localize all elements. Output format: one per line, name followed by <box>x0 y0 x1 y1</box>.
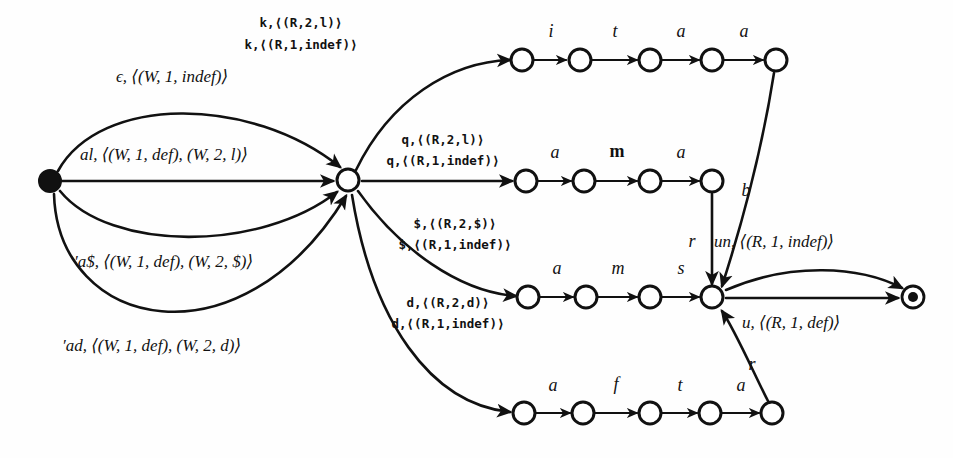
label-r-upper: r <box>688 231 696 251</box>
row1-state-2[interactable] <box>569 49 591 71</box>
row3-state-2[interactable] <box>575 286 597 308</box>
label-epsilon-edge: ϵ, ⟨(W, 1, indef)⟩ <box>116 67 228 86</box>
label-row4-t: t <box>677 375 683 395</box>
row4-state-4[interactable] <box>699 402 721 424</box>
label-ad-edge: ′ad, ⟨(W, 1, def), (W, 2, d)⟩ <box>62 336 241 355</box>
edge-a-dollar <box>60 191 337 237</box>
label-r-lower: r <box>748 354 756 374</box>
label-dollar-line2: $,⟨(R,1,indef)⟩ <box>399 237 512 252</box>
edge-un <box>726 270 902 290</box>
label-row2-a1: a <box>551 142 560 162</box>
row2-state-1[interactable] <box>515 170 537 192</box>
row2-state-3[interactable] <box>639 170 661 192</box>
label-row1-i: i <box>548 21 553 41</box>
label-q-line2: q,⟨(R,1,indef)⟩ <box>387 153 500 168</box>
label-row4-a1: a <box>549 375 558 395</box>
label-q-line1: q,⟨(R,2,l)⟩ <box>402 132 485 147</box>
label-a-dollar-edge: ′a$, ⟨(W, 1, def), (W, 2, $)⟩ <box>74 252 253 271</box>
row3-state-3[interactable] <box>639 286 661 308</box>
label-dollar-line1: $,⟨(R,2,$)⟩ <box>414 216 497 231</box>
label-u-edge: u, ⟨(R, 1, def)⟩ <box>742 313 840 332</box>
label-row4-a2: a <box>737 375 746 395</box>
label-row3-s: s <box>677 258 684 278</box>
accept-state-inner <box>908 292 918 302</box>
label-row4-f: f <box>613 374 621 394</box>
automaton-diagram: ϵ, ⟨(W, 1, indef)⟩ al, ⟨(W, 1, def), (W,… <box>0 0 953 458</box>
label-al-edge: al, ⟨(W, 1, def), (W, 2, l)⟩ <box>80 145 248 164</box>
row2-state-2[interactable] <box>573 170 595 192</box>
hub-state[interactable] <box>337 169 359 191</box>
label-row1-a2: a <box>740 21 749 41</box>
row1-state-4[interactable] <box>701 49 723 71</box>
label-row3-a: a <box>553 258 562 278</box>
label-row2-a2: a <box>677 142 686 162</box>
label-k-line1: k,⟨(R,2,l)⟩ <box>260 15 343 30</box>
row4-state-3[interactable] <box>639 402 661 424</box>
label-un-edge: un, ⟨(R, 1, indef)⟩ <box>714 232 834 251</box>
diagram-canvas: ϵ, ⟨(W, 1, indef)⟩ al, ⟨(W, 1, def), (W,… <box>0 0 953 458</box>
label-d-line2: d,⟨(R,1,indef)⟩ <box>392 316 505 331</box>
start-state[interactable] <box>39 170 61 192</box>
label-row1-t: t <box>612 21 618 41</box>
row2-state-4[interactable] <box>701 170 723 192</box>
label-row2-m: m <box>610 141 625 161</box>
row4-state-5[interactable] <box>761 402 783 424</box>
row4-state-2[interactable] <box>572 402 594 424</box>
label-row3-m: m <box>612 258 625 278</box>
label-d-line1: d,⟨(R,2,d)⟩ <box>407 295 490 310</box>
row4-state-1[interactable] <box>513 402 535 424</box>
label-row1-a1: a <box>677 21 686 41</box>
row1-state-3[interactable] <box>639 49 661 71</box>
row3-state-4[interactable] <box>701 286 723 308</box>
row3-state-1[interactable] <box>517 286 539 308</box>
row1-state-1[interactable] <box>511 49 533 71</box>
label-k-line2: k,⟨(R,1,indef)⟩ <box>245 37 358 52</box>
row1-state-5[interactable] <box>765 49 787 71</box>
label-b: b <box>742 180 751 200</box>
